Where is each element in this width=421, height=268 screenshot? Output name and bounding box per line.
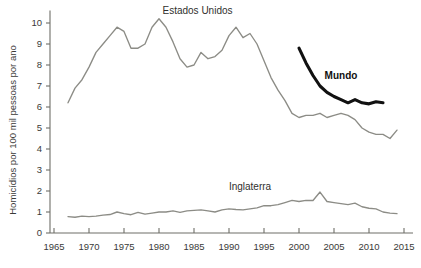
homicide-rate-line-chart: 012345678910 196519701975198019851990199… xyxy=(0,0,421,268)
y-tick-label: 4 xyxy=(37,143,42,154)
x-tick-label: 1975 xyxy=(113,241,134,252)
x-tick-label: 1980 xyxy=(148,241,169,252)
y-tick-label: 8 xyxy=(37,59,42,70)
y-tick-label: 5 xyxy=(37,122,42,133)
y-tick-label: 1 xyxy=(37,206,42,217)
x-tick-label: 2015 xyxy=(393,241,414,252)
y-tick-label: 6 xyxy=(37,101,42,112)
series-label-inglaterra: Inglaterra xyxy=(229,181,272,192)
x-tick-label: 1970 xyxy=(78,241,99,252)
series-label-mundo: Mundo xyxy=(325,70,358,81)
y-tick-label: 7 xyxy=(37,80,42,91)
y-tick-label: 3 xyxy=(37,164,42,175)
x-tick-label: 1985 xyxy=(183,241,204,252)
series-labels-group: Estados UnidosMundoInglaterra xyxy=(162,5,357,192)
series-line-inglaterra xyxy=(68,192,397,217)
chart-canvas: 012345678910 196519701975198019851990199… xyxy=(0,0,421,268)
axis-title-group: Homicídios por 100 mil pessoas por ano xyxy=(7,45,18,215)
x-tick-label: 2010 xyxy=(358,241,379,252)
y-tick-label: 9 xyxy=(37,38,42,49)
y-tick-label: 2 xyxy=(37,185,42,196)
x-axis: 1965197019751980198519901995200020052010… xyxy=(43,228,414,252)
y-axis: 012345678910 xyxy=(31,10,50,238)
x-tick-label: 1965 xyxy=(43,241,64,252)
y-tick-label: 10 xyxy=(31,17,42,28)
series-label-estados-unidos: Estados Unidos xyxy=(162,5,232,16)
y-axis-title: Homicídios por 100 mil pessoas por ano xyxy=(7,45,18,215)
y-tick-label: 0 xyxy=(37,227,42,238)
x-tick-label: 1990 xyxy=(218,241,239,252)
x-tick-label: 1995 xyxy=(253,241,274,252)
x-tick-label: 2005 xyxy=(323,241,344,252)
x-tick-label: 2000 xyxy=(288,241,309,252)
